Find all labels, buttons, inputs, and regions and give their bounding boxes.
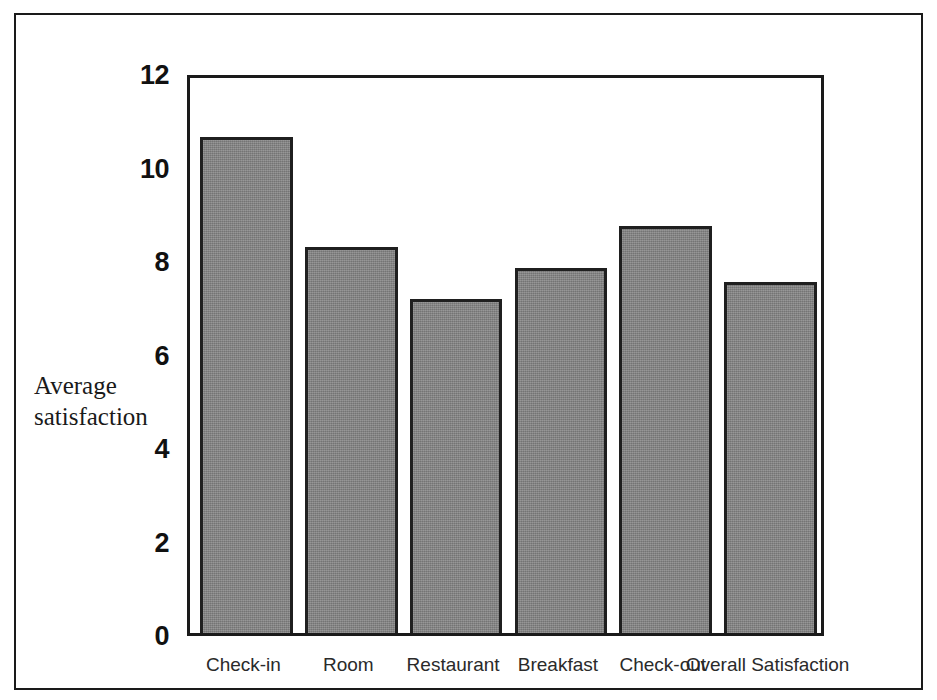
x-axis-label-overall-satisfaction: Overall Satisfaction [686,654,850,676]
y-axis-tick-10: 10 [107,153,169,184]
y-axis-tick-12: 12 [107,60,169,91]
plot-area [187,75,824,636]
x-axis-label-restaurant: Restaurant [407,654,500,676]
bar-overall-satisfaction [724,282,817,633]
x-axis-label-breakfast: Breakfast [518,654,598,676]
bar-check-out [619,226,712,633]
y-axis-tick-4: 4 [107,434,169,465]
y-axis-tick-6: 6 [107,340,169,371]
bars-layer [190,78,821,633]
y-axis-tick-2: 2 [107,527,169,558]
x-axis-label-check-in: Check-in [206,654,281,676]
bar-restaurant [410,299,503,633]
x-axis-label-room: Room [323,654,374,676]
y-axis-tick-8: 8 [107,247,169,278]
y-axis-title: Average satisfaction [34,370,184,432]
bar-room [305,247,398,633]
bar-check-in [200,137,293,633]
bar-breakfast [515,268,608,633]
y-axis-tick-0: 0 [107,621,169,652]
figure-frame: Average satisfaction 024681012 Check-inR… [14,13,923,690]
